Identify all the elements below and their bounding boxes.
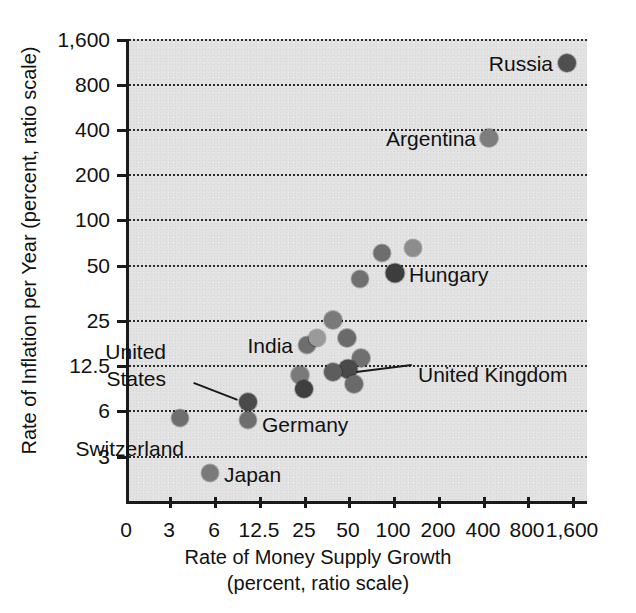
x-tick-mark [214,497,217,508]
y-axis-title: Rate of Inflation per Year (percent, rat… [17,0,42,516]
y-tick-mark [117,129,128,132]
plot-area: RussiaArgentinaHungaryIndiaUnited Kingdo… [126,39,587,504]
x-tick-mark [527,497,530,508]
y-tick-label: 50 [87,255,110,276]
data-point-russia [558,54,576,72]
data-point-japan [202,465,219,482]
y-tick-mark [117,365,128,368]
data-point [405,240,422,257]
point-label-united-states: UnitedStates [105,339,166,393]
gridline [129,129,587,131]
data-point [352,271,369,288]
x-tick-mark [348,497,351,508]
y-tick-mark [117,219,128,222]
data-point [309,330,326,347]
x-axis-title-line1: Rate of Money Supply Growth [0,544,636,570]
data-point-argentina [480,129,498,147]
data-point [324,363,342,381]
x-tick-mark [572,497,575,508]
scatter-plot-figure: RussiaArgentinaHungaryIndiaUnited Kingdo… [0,0,636,613]
data-point [374,245,391,262]
x-tick-label: 25 [292,519,315,540]
x-tick-label: 3 [163,519,175,540]
y-tick-label: 6 [98,400,110,421]
point-label-hungary: Hungary [409,264,488,285]
data-point-germany [240,412,257,429]
y-tick-label: 25 [87,310,110,331]
point-label-russia: Russia [489,53,553,74]
point-label-switzerland: Switzerland [75,438,184,459]
x-tick-label: 6 [208,519,220,540]
y-tick-label: 100 [75,209,110,230]
point-label-united-states-line2: States [105,366,166,393]
y-tick-label: 200 [75,164,110,185]
y-tick-mark [117,410,128,413]
point-label-india: India [247,335,293,356]
x-tick-label: 50 [336,519,359,540]
y-tick-label: 1,600 [57,29,110,50]
x-tick-mark [169,497,172,508]
gridline [129,219,587,221]
data-point-united-states [239,393,257,411]
point-label-argentina: Argentina [386,128,476,149]
data-point-hungary [386,264,405,283]
y-tick-label: 400 [75,119,110,140]
x-axis-title: Rate of Money Supply Growth (percent, ra… [0,544,636,596]
leader-line-united-states [193,382,238,401]
gridline [129,84,587,86]
y-tick-mark [117,265,128,268]
y-tick-label: 3 [98,446,110,467]
x-tick-label: 800 [509,519,544,540]
gridline [129,174,587,176]
gridline [129,265,587,267]
x-tick-label: 100 [375,519,410,540]
x-tick-label: 400 [465,519,500,540]
y-tick-label: 12.5 [69,355,110,376]
data-point [295,380,313,398]
gridline [129,320,587,322]
x-tick-mark [483,497,486,508]
y-tick-mark [117,84,128,87]
x-tick-label: 12.5 [239,519,280,540]
x-tick-mark [304,497,307,508]
x-tick-mark [259,497,262,508]
point-label-united-kingdom: United Kingdom [418,364,567,385]
y-tick-mark [117,39,128,42]
point-label-japan: Japan [224,464,281,485]
point-label-germany: Germany [262,414,348,435]
data-point-switzerland [172,410,189,427]
data-point [324,311,342,329]
point-label-united-states-line1: United [105,339,166,366]
gridline [129,456,587,458]
data-point [345,375,363,393]
x-tick-label: 200 [420,519,455,540]
gridline [129,410,587,412]
y-tick-mark [117,174,128,177]
x-tick-mark [438,497,441,508]
x-tick-label: 1,600 [546,519,599,540]
y-tick-mark [117,320,128,323]
y-tick-label: 800 [75,74,110,95]
x-axis-title-line2: (percent, ratio scale) [0,570,636,596]
data-point [338,329,356,347]
x-tick-label: 0 [120,519,132,540]
x-tick-mark [393,497,396,508]
y-tick-mark [117,456,128,459]
gridline [129,39,587,41]
